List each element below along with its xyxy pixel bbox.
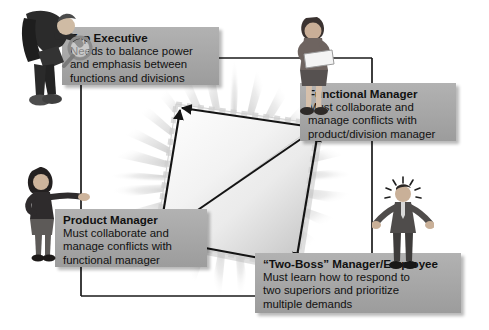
callout-line: multiple demands	[263, 298, 454, 312]
two-boss-figure	[372, 175, 434, 273]
top-executive-figure	[18, 8, 96, 110]
callout-line: product/division manager	[308, 128, 449, 142]
matrix-organization-diagram: Top Executive Needs to balance power and…	[0, 0, 489, 330]
functional-manager-figure	[286, 12, 348, 117]
product-manager-figure	[18, 163, 90, 263]
callout-line: two superiors and prioritize	[263, 284, 454, 298]
